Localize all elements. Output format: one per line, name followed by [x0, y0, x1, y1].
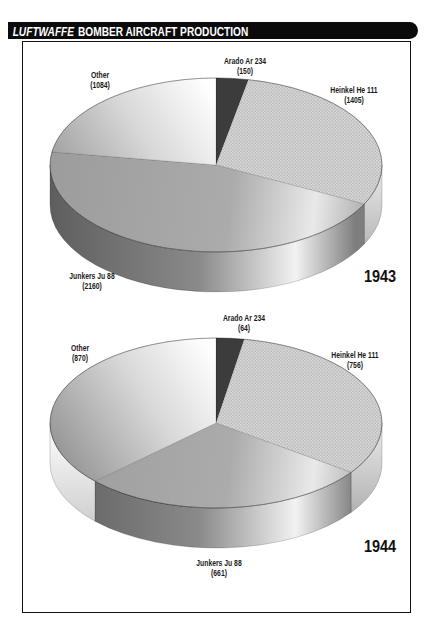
slice-label-arado-ar-234-1944: Arado Ar 234(64)	[223, 313, 265, 333]
slice-label-other-1943: Other(1084)	[90, 70, 110, 90]
slice-label-junkers-ju-88-1943: Junkers Ju 88(2160)	[69, 271, 114, 291]
page-background: LUFTWAFFEBOMBER AIRCRAFT PRODUCTION	[0, 0, 426, 621]
slice-label-heinkel-he-111-1944: Heinkel He 111(756)	[331, 350, 378, 370]
slice-label-heinkel-he-111-1943: Heinkel He 111(1405)	[330, 85, 377, 105]
year-label-1944: 1944	[364, 537, 396, 557]
slice-label-arado-ar-234-1943: Arado Ar 234(150)	[224, 56, 266, 76]
slice-label-junkers-ju-88-1944: Junkers Ju 88(661)	[196, 558, 241, 578]
year-label-1943: 1943	[364, 267, 396, 287]
pie-slice-other-1943	[52, 78, 216, 165]
slice-label-other-1944: Other(870)	[71, 343, 89, 363]
